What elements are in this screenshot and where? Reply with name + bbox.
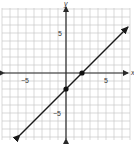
- x-tick-label-5: 5: [104, 77, 108, 84]
- point-x-intercept: [79, 70, 84, 75]
- x-axis-label: x: [130, 69, 134, 76]
- point-y-intercept: [63, 86, 68, 91]
- y-tick-label-5: 5: [58, 30, 62, 37]
- coordinate-plane: x y −5 5 5 −5: [0, 0, 134, 144]
- y-axis-label: y: [63, 0, 68, 8]
- y-tick-label-neg5: −5: [53, 110, 61, 117]
- x-tick-label-neg5: −5: [21, 77, 29, 84]
